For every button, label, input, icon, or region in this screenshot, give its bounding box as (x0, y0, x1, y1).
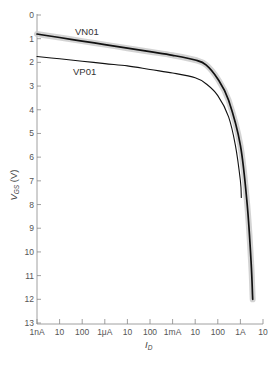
y-tick-label: 12 (25, 294, 35, 304)
y-tick-label: 0 (29, 10, 34, 20)
vn01-shaded-band (37, 34, 253, 299)
y-tick-label: 9 (29, 223, 34, 233)
y-tick-label: 5 (29, 128, 34, 138)
vn01-label: VN01 (75, 26, 99, 37)
x-tick-label: 10 (55, 327, 65, 337)
y-tick-label: 4 (29, 105, 34, 115)
y-ticks: 012345678910111213 (25, 10, 41, 328)
x-ticks: 1nA101001μA101001mA101001A10 (29, 319, 268, 337)
x-tick-label: 1mA (164, 327, 182, 337)
vp01-curve (37, 57, 241, 198)
y-axis-title: VGS (V) (8, 169, 20, 200)
x-tick-label: 100 (75, 327, 89, 337)
y-tick-label: 2 (29, 57, 34, 67)
x-tick-label: 10 (190, 327, 200, 337)
x-tick-label: 10 (258, 327, 268, 337)
y-tick-label: 8 (29, 200, 34, 210)
vn01-curve (37, 34, 253, 299)
x-tick-label: 100 (143, 327, 157, 337)
x-tick-label: 1nA (29, 327, 44, 337)
chart: 012345678910111213 1nA101001μA101001mA10… (0, 0, 273, 366)
y-tick-label: 10 (25, 247, 35, 257)
x-tick-label: 1A (235, 327, 246, 337)
y-tick-label: 7 (29, 176, 34, 186)
y-tick-label: 6 (29, 152, 34, 162)
x-axis-title: ID (145, 339, 153, 351)
y-tick-label: 1 (29, 34, 34, 44)
y-axis-title-unit: (V) (8, 169, 19, 184)
x-tick-label: 100 (211, 327, 225, 337)
x-tick-label: 10 (123, 327, 133, 337)
y-tick-label: 11 (25, 271, 34, 281)
x-axis-title-sub: D (148, 344, 153, 351)
vp01-label: VP01 (73, 66, 96, 77)
y-tick-label: 3 (29, 81, 34, 91)
series-group (37, 34, 253, 299)
x-tick-label: 1μA (97, 327, 113, 337)
